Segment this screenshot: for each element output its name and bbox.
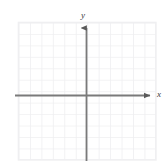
coordinate-plane-figure: y x bbox=[0, 0, 168, 167]
coordinate-plane-svg bbox=[0, 0, 168, 167]
x-axis-label: x bbox=[157, 90, 161, 99]
y-axis-label: y bbox=[81, 11, 85, 20]
